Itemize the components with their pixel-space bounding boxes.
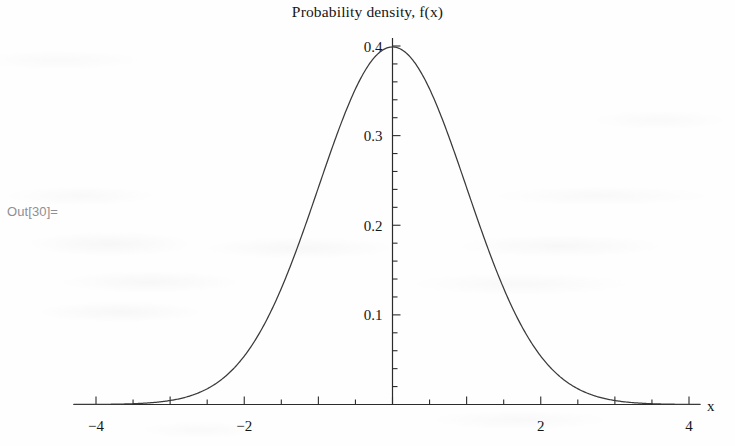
x-tick-label: 2 xyxy=(537,418,545,434)
y-tick-label: 0.1 xyxy=(364,307,383,323)
x-axis-tick-labels: −4−224 xyxy=(88,418,693,434)
x-tick-label: −4 xyxy=(88,418,104,434)
y-axis-tick-labels: 0.10.20.30.4 xyxy=(364,39,383,324)
x-tick-label: −2 xyxy=(236,418,252,434)
normal-density-curve xyxy=(74,47,700,405)
y-tick-label: 0.3 xyxy=(364,128,383,144)
probability-density-plot: −4−224 0.10.20.30.4 x xyxy=(0,0,735,446)
y-tick-label: 0.2 xyxy=(364,218,383,234)
axes-group xyxy=(83,38,700,405)
x-axis-label: x xyxy=(707,398,715,414)
y-axis-ticks xyxy=(393,46,401,387)
notebook-output-page: Out[30]= Probability density, f(x) −4−22… xyxy=(0,0,735,446)
x-tick-label: 4 xyxy=(685,418,693,434)
